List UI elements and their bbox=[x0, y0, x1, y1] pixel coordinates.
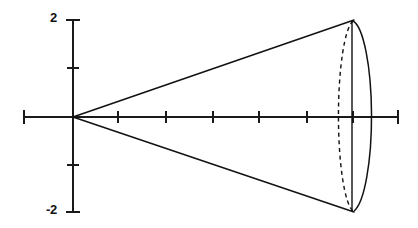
cone-diagram-svg bbox=[0, 0, 418, 228]
y-axis-max-label: 2 bbox=[50, 11, 57, 24]
cone-base-ellipse-front-arc bbox=[353, 21, 372, 211]
cone-lower-slant-edge bbox=[73, 117, 354, 212]
y-axis-min-label: -2 bbox=[46, 203, 57, 216]
cone-upper-slant-edge bbox=[73, 20, 354, 117]
cone-figure: 2 -2 bbox=[0, 0, 418, 228]
cone-base-ellipse-back-arc bbox=[338, 21, 353, 211]
